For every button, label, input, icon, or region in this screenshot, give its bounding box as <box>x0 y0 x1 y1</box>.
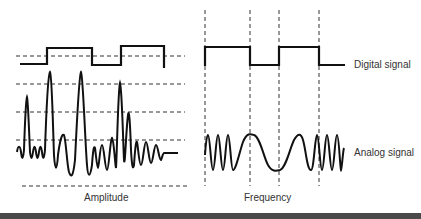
amplitude-panel <box>16 46 190 186</box>
analog-signal-label: Analog signal <box>354 147 414 158</box>
modulation-diagram <box>0 0 421 219</box>
amplitude-digital-signal <box>20 46 164 68</box>
frequency-panel <box>205 10 345 186</box>
frequency-digital-signal <box>205 47 345 66</box>
frequency-caption: Frequency <box>244 192 291 203</box>
amplitude-modulated-wave <box>17 72 178 176</box>
amplitude-reference-lines <box>16 56 190 186</box>
bottom-divider-bar <box>0 213 421 219</box>
frequency-modulated-wave <box>205 134 344 171</box>
digital-signal-label: Digital signal <box>354 59 411 70</box>
amplitude-caption: Amplitude <box>84 192 128 203</box>
